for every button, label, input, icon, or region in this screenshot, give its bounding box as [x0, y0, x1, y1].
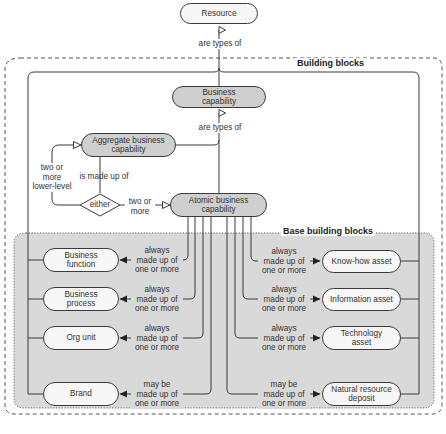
edge-label-is-made-up-of: is made up of	[76, 172, 132, 182]
diagram-connectors	[0, 0, 446, 434]
edge-label-two-or-more: two or more	[125, 197, 155, 216]
node-org-unit-label: Org unit	[66, 333, 95, 343]
edge-label-know-how-asset: always made up of one or more	[258, 247, 310, 276]
node-technology-asset-label: Technology asset	[341, 329, 382, 348]
edge-label-org-unit: always made up of one or more	[131, 324, 183, 353]
node-business-capability[interactable]: Business capability	[172, 86, 266, 108]
edge-label-are-types-of-mid: are types of	[190, 123, 250, 133]
node-brand[interactable]: Brand	[43, 382, 119, 406]
building-blocks-title: Building blocks	[294, 58, 367, 68]
node-technology-asset[interactable]: Technology asset	[322, 326, 401, 350]
node-know-how-asset-label: Know-how asset	[331, 257, 391, 267]
edge-label-are-types-of-top: are types of	[190, 39, 250, 49]
edge-label-natural-resource-deposit: may be made up of one or more	[258, 380, 310, 409]
edge-label-technology-asset: always made up of one or more	[258, 324, 310, 353]
node-atomic-label: Atomic business capability	[189, 196, 249, 215]
node-know-how-asset[interactable]: Know-how asset	[322, 250, 401, 273]
node-brand-label: Brand	[70, 389, 92, 399]
edge-label-two-or-more-lower-level: two or more lower-level	[32, 163, 72, 192]
either-label: either	[86, 200, 114, 210]
node-business-capability-label: Business capability	[202, 88, 236, 107]
node-business-function-label: Business function	[64, 251, 97, 270]
base-building-blocks-title: Base building blocks	[281, 226, 375, 236]
node-natural-resource-deposit-label: Natural resource deposit	[331, 385, 392, 404]
edge-label-information-asset: always made up of one or more	[258, 285, 310, 314]
node-resource-label: Resource	[201, 9, 236, 19]
node-business-function[interactable]: Business function	[43, 248, 119, 272]
node-resource[interactable]: Resource	[180, 3, 258, 24]
node-business-process-label: Business process	[64, 290, 97, 309]
edge-label-brand: may be made up of one or more	[131, 380, 183, 409]
node-aggregate-business-capability[interactable]: Aggregate business capability	[81, 133, 176, 157]
node-natural-resource-deposit[interactable]: Natural resource deposit	[322, 382, 401, 406]
node-aggregate-label: Aggregate business capability	[92, 136, 164, 155]
node-business-process[interactable]: Business process	[43, 287, 119, 311]
node-information-asset-label: Information asset	[330, 295, 393, 305]
node-org-unit[interactable]: Org unit	[43, 326, 119, 350]
node-atomic-business-capability[interactable]: Atomic business capability	[170, 193, 267, 217]
edge-label-business-function: always made up of one or more	[131, 246, 183, 275]
edge-label-business-process: always made up of one or more	[131, 285, 183, 314]
node-information-asset[interactable]: Information asset	[322, 288, 401, 311]
